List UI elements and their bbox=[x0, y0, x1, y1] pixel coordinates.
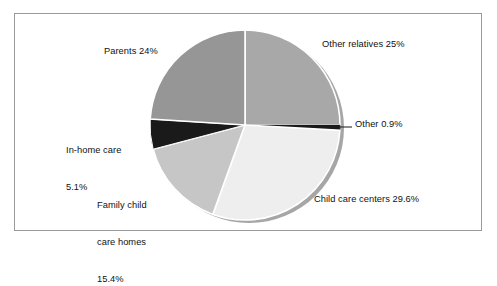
pie-slices bbox=[150, 30, 340, 220]
slice-label-family-child-care-homes: Family child care homes 15.4% bbox=[97, 175, 147, 286]
slice-label-other: Other 0.9% bbox=[355, 118, 403, 130]
slice-label-other-relatives: Other relatives 25% bbox=[322, 38, 405, 50]
slice-label-family-child-care-line2: care homes bbox=[97, 236, 147, 248]
pie-slice-parents[interactable] bbox=[150, 30, 245, 125]
slice-label-child-care-centers: Child care centers 29.6% bbox=[314, 193, 419, 205]
slice-label-family-child-care-line3: 15.4% bbox=[97, 273, 147, 285]
slice-label-in-home-care-line1: In-home care bbox=[66, 144, 121, 156]
slice-label-family-child-care-line1: Family child bbox=[97, 199, 147, 211]
slice-label-parents: Parents 24% bbox=[104, 45, 158, 57]
